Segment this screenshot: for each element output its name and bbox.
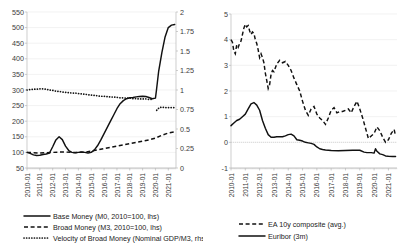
y2-tick-label: 0: [180, 164, 184, 173]
y-tick-label: -1: [222, 164, 228, 173]
y2-tick-label: 0.5: [180, 125, 190, 134]
y2-tick-label: 2: [180, 8, 184, 17]
chart-panel-right: -1012345 2010-012011-012012-012013-01201…: [203, 0, 406, 252]
x-tick-label: 2018-01: [342, 173, 349, 198]
legend-label: Velocity of Broad Money (Nominal GDP/M3,…: [53, 234, 203, 243]
y-tick-label: 100: [12, 148, 24, 157]
legend-label: Euribor (3m): [268, 232, 308, 241]
x-tick-label: 2013-01: [271, 173, 278, 198]
y-tick-label: 300: [12, 86, 24, 95]
series-line: [27, 132, 175, 153]
x-tick-label: 2021-01: [385, 173, 392, 198]
y-tick-label: 50: [16, 164, 24, 173]
x-tick-label: 2021-01: [165, 173, 172, 198]
x-tick-label: 2012-01: [256, 173, 263, 198]
right-series-group: [231, 24, 396, 156]
y-tick-label: 200: [12, 117, 24, 126]
x-tick-label: 2016-01: [313, 173, 320, 198]
y-tick-label: 2: [224, 87, 228, 96]
series-line-segment2: [157, 107, 175, 110]
chart-panel-left: 50100150200250300350400450500550 00.250.…: [0, 0, 203, 252]
x-tick-label: 2017-01: [328, 173, 335, 198]
series-line: [231, 103, 396, 157]
left-legend: Base Money (M0, 2010=100, lhs)Broad Mone…: [24, 212, 203, 243]
x-tick-label: 2016-01: [101, 173, 108, 198]
y2-tick-label: 1.75: [180, 27, 194, 36]
right-axis-left-ticks: -1012345: [222, 10, 231, 173]
y-tick-label: 400: [12, 54, 24, 63]
y2-tick-label: 0.25: [180, 144, 194, 153]
x-tick-label: 2010-01: [24, 173, 31, 198]
right-legend: EA 10y composite (avg.)Euribor (3m): [239, 220, 346, 241]
x-tick-label: 2011-01: [242, 173, 249, 197]
y-tick-label: 3: [224, 61, 228, 70]
left-axis-x-ticks: 2010-012011-012012-012013-012014-012015-…: [24, 168, 176, 197]
y2-tick-label: 0.75: [180, 105, 194, 114]
x-tick-label: 2013-01: [62, 173, 69, 198]
left-axis-right-ticks: 00.250.50.7511.251.51.752: [176, 8, 194, 173]
x-tick-label: 2020-01: [152, 173, 159, 198]
y-tick-label: 500: [12, 23, 24, 32]
x-tick-label: 2018-01: [126, 173, 133, 198]
x-tick-label: 2020-01: [371, 173, 378, 198]
left-chart-svg: 50100150200250300350400450500550 00.250.…: [0, 0, 203, 252]
left-axis-left-ticks: 50100150200250300350400450500550: [12, 8, 27, 173]
y2-tick-label: 1.25: [180, 66, 194, 75]
x-tick-label: 2010-01: [228, 173, 235, 198]
y-tick-label: 4: [224, 35, 228, 44]
x-tick-label: 2015-01: [88, 173, 95, 198]
y-tick-label: 5: [224, 10, 228, 19]
x-tick-label: 2011-01: [36, 173, 43, 197]
x-tick-label: 2019-01: [356, 173, 363, 198]
figure-container: 50100150200250300350400450500550 00.250.…: [0, 0, 406, 252]
left-gridlines: [27, 12, 176, 168]
legend-label: EA 10y composite (avg.): [268, 220, 346, 229]
series-line: [231, 24, 396, 142]
x-tick-label: 2012-01: [49, 173, 56, 198]
x-tick-label: 2014-01: [75, 173, 82, 198]
right-chart-svg: -1012345 2010-012011-012012-012013-01201…: [203, 0, 406, 252]
y2-tick-label: 1.5: [180, 47, 190, 56]
y2-tick-label: 1: [180, 86, 184, 95]
x-tick-label: 2015-01: [299, 173, 306, 198]
y-tick-label: 1: [224, 112, 228, 121]
x-tick-label: 2014-01: [285, 173, 292, 198]
y-tick-label: 250: [12, 101, 24, 110]
legend-label: Broad Money (M3, 2010=100, lhs): [53, 223, 162, 232]
y-tick-label: 150: [12, 132, 24, 141]
legend-label: Base Money (M0, 2010=100, lhs): [53, 212, 159, 221]
right-axis-x-ticks: 2010-012011-012012-012013-012014-012015-…: [228, 168, 397, 197]
y-tick-label: 450: [12, 39, 24, 48]
x-tick-label: 2019-01: [139, 173, 146, 198]
x-tick-label: 2017-01: [114, 173, 121, 198]
y-tick-label: 350: [12, 70, 24, 79]
y-tick-label: 0: [224, 138, 228, 147]
y-tick-label: 550: [12, 8, 24, 17]
